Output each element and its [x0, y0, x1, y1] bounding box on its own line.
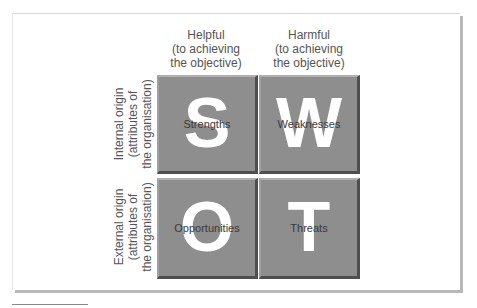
quadrant-strengths: S Strengths [157, 75, 258, 174]
column-header-harmful: Harmful (to achieving the objective) [254, 28, 364, 70]
row-head-line: Internal origin [112, 74, 126, 174]
quadrant-label: Threats [251, 222, 367, 234]
col-head-line: Helpful [151, 28, 261, 42]
col-head-line: Harmful [254, 28, 364, 42]
row-head-line: External origin [112, 177, 126, 277]
row-head-line: (attributes of [126, 74, 140, 174]
quadrant-threats: T Threats [259, 178, 360, 279]
footnote-rule [12, 304, 88, 305]
quadrant-label: Weaknesses [251, 118, 367, 130]
col-head-line: the objective) [254, 56, 364, 70]
col-head-line: (to achieving [151, 42, 261, 56]
quadrant-label: Strengths [149, 118, 265, 130]
quadrant-label: Opportunities [149, 222, 265, 234]
col-head-line: (to achieving [254, 42, 364, 56]
row-head-line: (attributes of [126, 177, 140, 277]
quadrant-opportunities: O Opportunities [157, 178, 258, 279]
column-header-helpful: Helpful (to achieving the objective) [151, 28, 261, 70]
col-head-line: the objective) [151, 56, 261, 70]
quadrant-weaknesses: W Weaknesses [259, 75, 360, 174]
